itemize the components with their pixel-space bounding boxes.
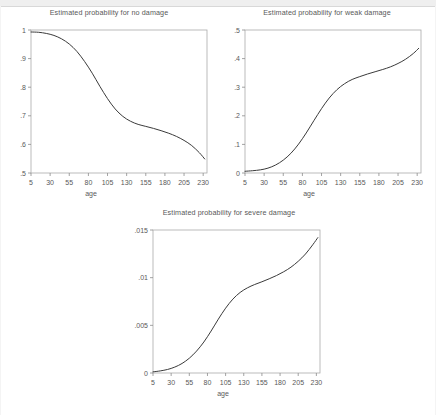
svg-text:.5: .5 xyxy=(234,27,240,34)
svg-text:30: 30 xyxy=(167,379,175,386)
svg-text:5: 5 xyxy=(151,379,155,386)
x-axis-label-severe-damage: age xyxy=(103,390,343,397)
top-band xyxy=(0,0,436,7)
svg-text:5: 5 xyxy=(29,179,33,186)
svg-text:.015: .015 xyxy=(134,227,148,234)
svg-text:.3: .3 xyxy=(234,84,240,91)
svg-text:55: 55 xyxy=(185,379,193,386)
svg-text:55: 55 xyxy=(65,179,73,186)
svg-text:.5: .5 xyxy=(20,170,26,177)
svg-text:.4: .4 xyxy=(234,55,240,62)
svg-text:.7: .7 xyxy=(20,112,26,119)
svg-text:180: 180 xyxy=(159,179,171,186)
svg-text:.2: .2 xyxy=(234,112,240,119)
svg-text:155: 155 xyxy=(256,379,268,386)
x-axis-label-no-damage: age xyxy=(0,190,200,197)
svg-text:0: 0 xyxy=(144,370,148,377)
svg-text:155: 155 xyxy=(354,179,366,186)
plot-area-severe-damage: 0.005.01.0155305580105130155180205230 xyxy=(109,208,349,393)
x-axis-label-weak-damage: age xyxy=(200,190,418,197)
svg-text:180: 180 xyxy=(274,379,286,386)
plot-area-weak-damage: 0.1.2.3.4.55305580105130155180205230 xyxy=(218,8,436,193)
svg-text:55: 55 xyxy=(279,179,287,186)
svg-text:180: 180 xyxy=(373,179,385,186)
svg-text:5: 5 xyxy=(243,179,247,186)
svg-text:130: 130 xyxy=(238,379,250,386)
svg-text:80: 80 xyxy=(298,179,306,186)
svg-text:205: 205 xyxy=(292,379,304,386)
chart-panel-severe-damage: Estimated probability for severe damage … xyxy=(109,208,349,408)
plot-area-no-damage: .5.6.7.8.915305580105130155180205230 xyxy=(0,8,218,193)
svg-text:105: 105 xyxy=(316,179,328,186)
svg-text:130: 130 xyxy=(335,179,347,186)
svg-text:.8: .8 xyxy=(20,84,26,91)
svg-text:230: 230 xyxy=(311,379,323,386)
svg-text:105: 105 xyxy=(102,179,114,186)
svg-text:30: 30 xyxy=(260,179,268,186)
chart-panel-weak-damage: Estimated probability for weak damage 0.… xyxy=(218,8,436,208)
chart-panel-no-damage: Estimated probability for no damage .5.6… xyxy=(0,8,218,208)
svg-text:.1: .1 xyxy=(234,141,240,148)
svg-text:230: 230 xyxy=(411,179,423,186)
svg-text:130: 130 xyxy=(121,179,133,186)
svg-text:205: 205 xyxy=(392,179,404,186)
svg-text:105: 105 xyxy=(220,379,232,386)
svg-text:80: 80 xyxy=(204,379,212,386)
svg-text:.005: .005 xyxy=(134,322,148,329)
svg-text:80: 80 xyxy=(84,179,92,186)
svg-text:205: 205 xyxy=(178,179,190,186)
svg-text:30: 30 xyxy=(46,179,54,186)
svg-text:.9: .9 xyxy=(20,55,26,62)
svg-text:.01: .01 xyxy=(138,274,148,281)
svg-text:230: 230 xyxy=(197,179,209,186)
svg-text:1: 1 xyxy=(22,27,26,34)
svg-text:155: 155 xyxy=(140,179,152,186)
svg-text:.6: .6 xyxy=(20,141,26,148)
svg-text:0: 0 xyxy=(236,170,240,177)
